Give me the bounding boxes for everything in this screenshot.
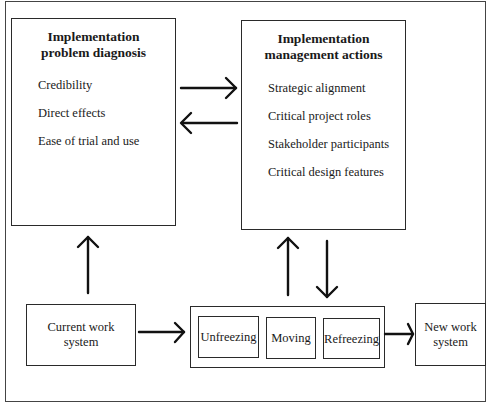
arrow-up-icon [78, 237, 98, 293]
arrow-right-icon [139, 323, 184, 342]
arrow-down-icon [317, 241, 337, 297]
arrows-layer [0, 0, 491, 409]
arrow-up-icon [278, 238, 298, 295]
arrow-left-icon [181, 113, 237, 133]
arrow-right-icon [385, 324, 413, 344]
arrow-right-icon [181, 78, 236, 98]
